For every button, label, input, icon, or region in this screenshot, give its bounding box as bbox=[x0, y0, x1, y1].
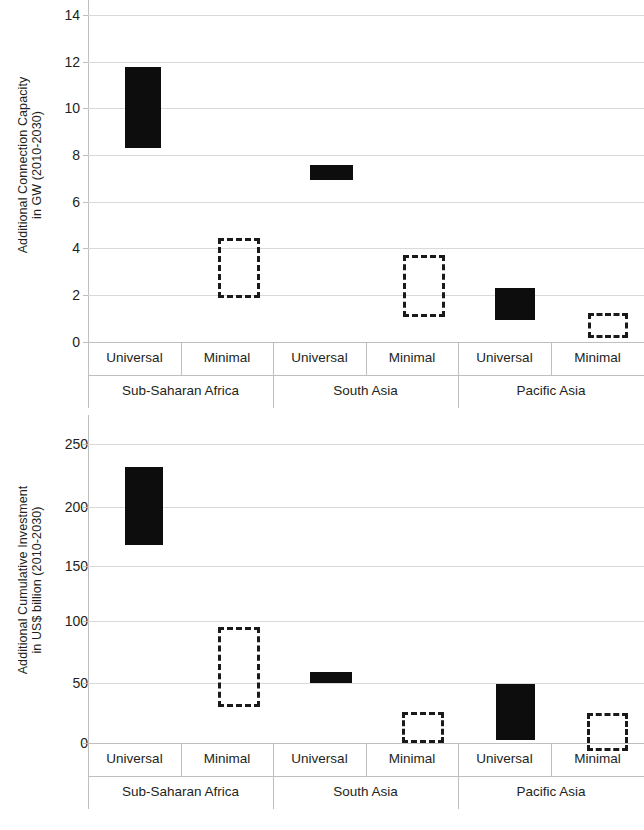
category-label-minimal: Minimal bbox=[551, 350, 644, 365]
gridline bbox=[88, 444, 644, 445]
category-label-minimal: Minimal bbox=[551, 751, 644, 766]
y-tick bbox=[83, 295, 88, 296]
group-label-south-asia: South Asia bbox=[273, 383, 458, 398]
y-tick-label: 8 bbox=[72, 147, 80, 163]
chart-panel-connection-capacity: Additional Connection Capacity in GW (20… bbox=[0, 0, 644, 415]
gridline bbox=[88, 248, 644, 249]
chart-panel-cumulative-investment: Additional Cumulative Investment in US$ … bbox=[0, 415, 644, 830]
category-label-universal: Universal bbox=[458, 350, 551, 365]
category-axis-top: Universal Minimal Universal Minimal Univ… bbox=[0, 342, 644, 412]
category-label-universal: Universal bbox=[458, 751, 551, 766]
y-tick bbox=[83, 683, 88, 684]
axis-rule bbox=[88, 776, 644, 777]
gridline bbox=[88, 621, 644, 622]
y-axis-line-top bbox=[88, 0, 89, 342]
y-axis-tick-labels-bottom: 250 200 150 100 50 0 bbox=[48, 415, 88, 775]
gridline bbox=[88, 507, 644, 508]
gridline bbox=[88, 108, 644, 109]
category-label-minimal: Minimal bbox=[366, 751, 458, 766]
plot-area-bottom bbox=[88, 415, 644, 743]
y-tick-label: 2 bbox=[72, 287, 80, 303]
group-label-pacific-asia: Pacific Asia bbox=[458, 784, 644, 799]
y-tick bbox=[83, 248, 88, 249]
gridline bbox=[88, 62, 644, 63]
range-box-south-asia-universal bbox=[310, 672, 352, 683]
y-tick-label: 12 bbox=[64, 54, 80, 70]
y-tick bbox=[83, 62, 88, 63]
category-label-minimal: Minimal bbox=[181, 350, 273, 365]
category-label-universal: Universal bbox=[88, 350, 181, 365]
y-tick bbox=[83, 507, 88, 508]
range-box-south-asia-minimal bbox=[402, 712, 444, 743]
gridline bbox=[88, 683, 644, 684]
gridline bbox=[88, 15, 644, 16]
y-tick bbox=[83, 202, 88, 203]
group-label-south-asia: South Asia bbox=[273, 784, 458, 799]
range-box-south-asia-minimal bbox=[403, 255, 445, 317]
y-tick-label: 4 bbox=[72, 240, 80, 256]
plot-area-top bbox=[88, 0, 644, 342]
range-box-pacific-asia-universal bbox=[495, 288, 535, 320]
range-box-ssa-minimal bbox=[218, 238, 260, 298]
gridline bbox=[88, 155, 644, 156]
y-axis-title-top-line1: Additional Connection Capacity bbox=[16, 77, 30, 254]
y-tick bbox=[83, 108, 88, 109]
range-box-pacific-asia-universal bbox=[496, 684, 535, 740]
category-label-universal: Universal bbox=[273, 751, 366, 766]
gridline bbox=[88, 295, 644, 296]
gridline bbox=[88, 566, 644, 567]
axis-rule bbox=[88, 375, 644, 376]
range-box-pacific-asia-minimal bbox=[588, 313, 628, 338]
y-tick-label: 6 bbox=[72, 194, 80, 210]
range-box-ssa-universal bbox=[125, 67, 161, 149]
category-label-universal: Universal bbox=[88, 751, 181, 766]
y-axis-tick-labels-top: 14 12 10 8 6 4 2 0 bbox=[40, 0, 80, 360]
category-label-minimal: Minimal bbox=[181, 751, 273, 766]
range-box-south-asia-universal bbox=[310, 165, 353, 180]
group-label-pacific-asia: Pacific Asia bbox=[458, 383, 644, 398]
category-label-minimal: Minimal bbox=[366, 350, 458, 365]
y-axis-title-bottom-line1: Additional Cumulative Investment bbox=[16, 486, 30, 675]
range-box-ssa-minimal bbox=[218, 627, 260, 707]
y-axis-title-bottom: Additional Cumulative Investment in US$ … bbox=[16, 415, 44, 745]
y-tick bbox=[83, 155, 88, 156]
range-box-ssa-universal bbox=[125, 467, 163, 545]
figure-two-panel-range-chart: Additional Connection Capacity in GW (20… bbox=[0, 0, 644, 830]
y-tick-label: 14 bbox=[64, 7, 80, 23]
y-tick bbox=[83, 621, 88, 622]
group-label-sub-saharan-africa: Sub-Saharan Africa bbox=[88, 784, 273, 799]
group-label-sub-saharan-africa: Sub-Saharan Africa bbox=[88, 383, 273, 398]
category-label-universal: Universal bbox=[273, 350, 366, 365]
y-tick bbox=[83, 566, 88, 567]
y-tick-label: 10 bbox=[64, 100, 80, 116]
y-tick bbox=[83, 444, 88, 445]
y-axis-title-bottom-line2: in US$ billion (2010-2030) bbox=[30, 415, 44, 745]
y-axis-line-bottom bbox=[88, 415, 89, 743]
gridline bbox=[88, 202, 644, 203]
category-axis-bottom: Universal Minimal Universal Minimal Univ… bbox=[0, 743, 644, 813]
y-tick bbox=[83, 15, 88, 16]
